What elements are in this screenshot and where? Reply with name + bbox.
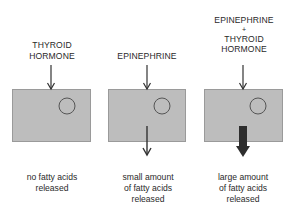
panel2-input-arrow-icon <box>144 65 151 89</box>
arrows-and-nuclei <box>0 0 294 202</box>
panel1-input-arrow-icon <box>48 65 55 89</box>
panel3-large-output-arrow-icon <box>236 126 250 157</box>
panel2-small-output-arrow-icon <box>143 126 151 155</box>
panel3-nucleus-icon <box>250 98 266 114</box>
panel3-input-arrow-icon <box>240 65 247 89</box>
panel2-nucleus-icon <box>154 98 170 114</box>
panel1-nucleus-icon <box>59 98 75 114</box>
